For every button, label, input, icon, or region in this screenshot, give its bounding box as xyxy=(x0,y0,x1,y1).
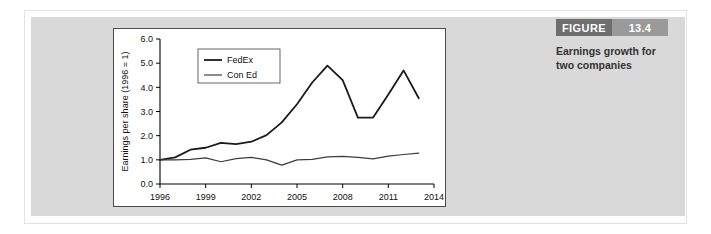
figure-badge: FIGURE 13.4 xyxy=(556,19,668,36)
line-chart: 0.01.02.03.04.05.06.01996199920022005200… xyxy=(114,29,445,206)
y-axis-title: Earnings per share (1996 = 1) xyxy=(120,52,130,172)
chart-tick-labels: 0.01.02.03.04.05.06.01996199920022005200… xyxy=(140,34,444,202)
x-tick-label: 1999 xyxy=(196,192,216,202)
legend-item-label: FedEx xyxy=(227,55,254,65)
y-tick-label: 0.0 xyxy=(140,179,153,189)
y-axis-title-text: Earnings per share (1996 = 1) xyxy=(120,52,130,172)
x-tick-label: 2011 xyxy=(379,192,398,202)
figure-badge-word: FIGURE xyxy=(556,19,612,36)
x-tick-label: 2005 xyxy=(287,192,307,202)
x-tick-label: 2008 xyxy=(333,192,353,202)
x-tick-label: 2002 xyxy=(241,192,261,202)
y-tick-label: 6.0 xyxy=(140,34,153,44)
y-tick-label: 5.0 xyxy=(140,58,153,68)
figure-caption-line-2: two companies xyxy=(556,59,632,71)
legend-item-label: Con Ed xyxy=(227,70,257,80)
x-tick-label: 2014 xyxy=(424,192,444,202)
chart-card: 0.01.02.03.04.05.06.01996199920022005200… xyxy=(113,28,446,207)
figure-caption-line-1: Earnings growth for xyxy=(556,45,656,57)
figure-label-block: FIGURE 13.4 Earnings growth for two comp… xyxy=(556,19,674,89)
y-tick-label: 3.0 xyxy=(140,107,153,117)
figure-badge-number: 13.4 xyxy=(612,19,668,36)
y-tick-label: 4.0 xyxy=(140,83,153,93)
y-tick-label: 1.0 xyxy=(140,155,153,165)
series-line-con-ed xyxy=(160,153,419,165)
x-tick-label: 1996 xyxy=(150,192,170,202)
figure-page: 0.01.02.03.04.05.06.01996199920022005200… xyxy=(0,0,711,234)
y-tick-label: 2.0 xyxy=(140,131,153,141)
figure-caption: Earnings growth for two companies xyxy=(556,45,672,72)
chart-legend[interactable]: FedExCon Ed xyxy=(198,49,280,83)
